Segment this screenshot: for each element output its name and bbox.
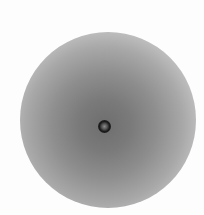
center-ring bbox=[98, 120, 111, 133]
image-canvas: Grayscale circular gradient disc with a … bbox=[0, 0, 204, 215]
gradient-disc bbox=[20, 32, 196, 208]
